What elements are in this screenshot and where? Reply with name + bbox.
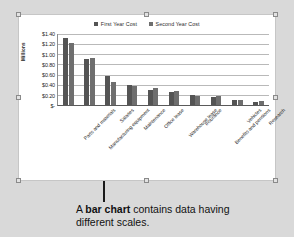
bar[interactable] [153,88,158,105]
legend-swatch-icon [94,22,98,26]
bar-group[interactable] [105,34,116,105]
bar[interactable] [105,76,110,105]
chart-object[interactable]: First Year CostSecond Year Cost Millions… [18,14,276,181]
caption-emphasis: bar chart [85,203,130,215]
y-axis-tick-label: $0.60 [42,72,55,78]
legend-item[interactable]: Second Year Cost [149,21,200,27]
resize-handle-top-right[interactable] [273,12,278,17]
legend-label: First Year Cost [101,21,137,27]
bar-group[interactable] [232,34,243,105]
legend-swatch-icon [149,22,153,26]
bar[interactable] [253,102,258,105]
bar[interactable] [132,86,137,105]
y-axis-tick-label: $0.80 [42,62,55,68]
bar[interactable] [232,100,237,105]
bar-group[interactable] [127,34,138,105]
y-axis-tick-label: $1.20 [42,41,55,47]
y-axis-title: Millions [21,42,26,61]
bar[interactable] [84,59,89,105]
bar-group[interactable] [84,34,95,105]
x-axis-category-labels: Parts and materialsManufacturing equipme… [57,107,269,177]
resize-handle-middle-right[interactable] [273,95,278,100]
y-axis-tick-label: $0.20 [42,93,55,99]
bar-group[interactable] [63,34,74,105]
resize-handle-middle-left[interactable] [16,95,21,100]
bar[interactable] [127,85,132,105]
legend-label: Second Year Cost [156,21,200,27]
bar[interactable] [148,90,153,105]
bar[interactable] [90,58,95,105]
y-axis-tick-labels: $1.40$1.20$1.00$0.80$0.60$0.40$0.20$- [29,34,55,106]
callout-leader-line [103,181,105,202]
y-axis-tick-label: $1.00 [42,52,55,58]
bar-group[interactable] [190,34,201,105]
resize-handle-top-left[interactable] [16,12,21,17]
caption-lead: A [76,203,85,215]
bar[interactable] [259,101,264,105]
bar[interactable] [169,92,174,105]
bar[interactable] [111,82,116,105]
bar-group[interactable] [253,34,264,105]
caption-text: A bar chart contains data having differe… [76,203,261,228]
resize-handle-bottom-left[interactable] [16,178,21,183]
y-axis-tick-label: $- [50,103,55,109]
bar[interactable] [216,96,221,105]
bar[interactable] [63,38,68,105]
bar-group[interactable] [211,34,222,105]
bar-group[interactable] [148,34,159,105]
y-axis-tick-label: $0.40 [42,82,55,88]
bar[interactable] [190,95,195,105]
bar-series-container [58,34,269,105]
y-axis-tick-label: $1.40 [42,31,55,37]
bar[interactable] [195,96,200,105]
resize-handle-bottom-right[interactable] [273,178,278,183]
bar[interactable] [69,43,74,105]
plot-area [57,34,269,106]
resize-handle-bottom-center[interactable] [144,178,149,183]
bar[interactable] [174,91,179,105]
bar-group[interactable] [169,34,180,105]
bar[interactable] [238,100,243,105]
bar[interactable] [211,97,216,105]
x-axis-category-label: Parts and materials [82,107,116,141]
legend-item[interactable]: First Year Cost [94,21,137,27]
resize-handle-top-center[interactable] [144,12,149,17]
chart-legend[interactable]: First Year CostSecond Year Cost [19,21,275,27]
